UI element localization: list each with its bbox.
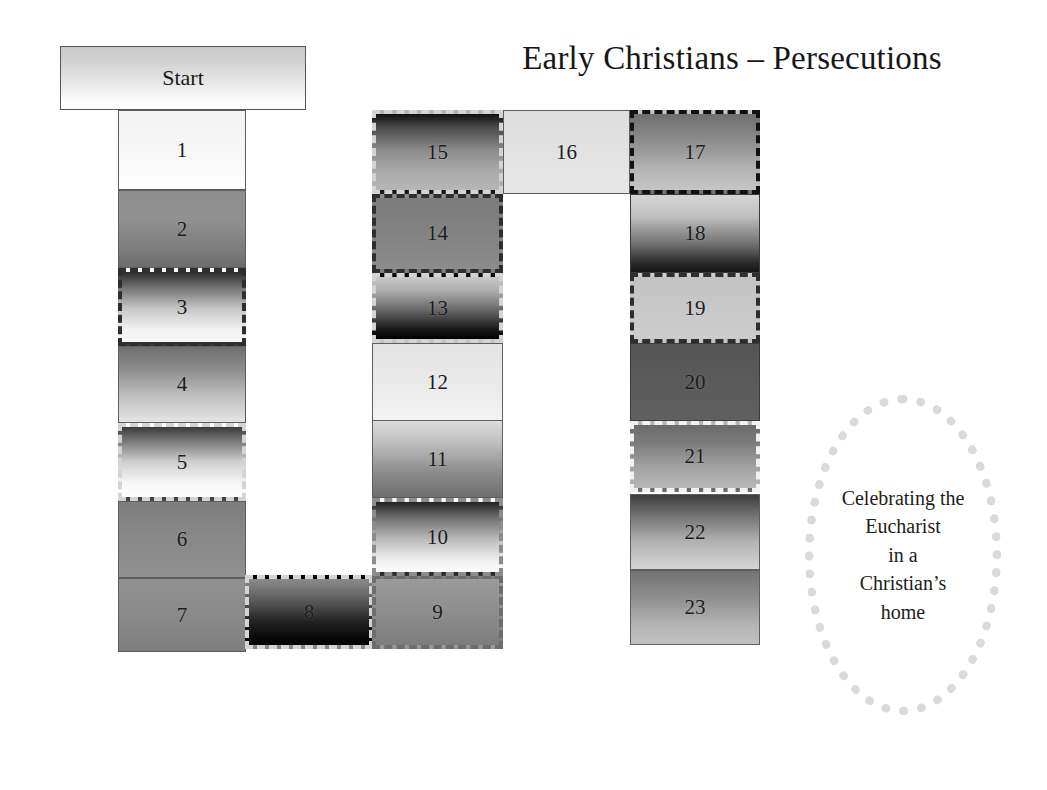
timeline-cell-label: 9 bbox=[432, 602, 443, 623]
timeline-cell-label: 8 bbox=[304, 602, 315, 623]
timeline-cell-label: 15 bbox=[427, 142, 448, 163]
timeline-cell-16[interactable]: 16 bbox=[503, 110, 630, 194]
start-box[interactable]: Start bbox=[60, 46, 306, 110]
callout-line-5: home bbox=[842, 598, 965, 626]
timeline-cell-10[interactable]: 10 bbox=[372, 498, 503, 576]
timeline-cell-12[interactable]: 12 bbox=[372, 343, 503, 421]
timeline-cell-18[interactable]: 18 bbox=[630, 194, 760, 273]
timeline-cell-6[interactable]: 6 bbox=[118, 501, 246, 578]
timeline-cell-17[interactable]: 17 bbox=[630, 110, 760, 194]
timeline-cell-1[interactable]: 1 bbox=[118, 110, 246, 190]
timeline-cell-label: 21 bbox=[685, 446, 706, 467]
timeline-cell-22[interactable]: 22 bbox=[630, 494, 760, 570]
timeline-cell-21[interactable]: 21 bbox=[630, 421, 760, 492]
timeline-cell-20[interactable]: 20 bbox=[630, 343, 760, 421]
timeline-cell-label: 14 bbox=[427, 223, 448, 244]
timeline-cell-label: 16 bbox=[556, 142, 577, 163]
timeline-cell-label: 11 bbox=[427, 449, 447, 470]
timeline-cell-label: 20 bbox=[685, 372, 706, 393]
timeline-cell-label: 6 bbox=[177, 529, 188, 550]
timeline-cell-label: 12 bbox=[427, 372, 448, 393]
callout-line-1: Celebrating the bbox=[842, 484, 965, 512]
timeline-cell-4[interactable]: 4 bbox=[118, 346, 246, 423]
timeline-cell-9[interactable]: 9 bbox=[372, 575, 503, 649]
timeline-cell-23[interactable]: 23 bbox=[630, 570, 760, 645]
timeline-cell-label: 10 bbox=[427, 527, 448, 548]
timeline-cell-label: 1 bbox=[177, 140, 188, 161]
timeline-cell-label: 18 bbox=[685, 223, 706, 244]
callout-line-2: Eucharist bbox=[842, 512, 965, 540]
timeline-cell-label: 2 bbox=[177, 219, 188, 240]
timeline-cell-8[interactable]: 8 bbox=[245, 575, 373, 649]
diagram-canvas: Early Christians – Persecutions Start 12… bbox=[0, 0, 1047, 790]
callout-line-3: in a bbox=[842, 541, 965, 569]
callout-text: Celebrating the Eucharist in a Christian… bbox=[836, 484, 971, 626]
page-title: Early Christians – Persecutions bbox=[452, 40, 1012, 77]
timeline-cell-label: 7 bbox=[177, 605, 188, 626]
timeline-cell-label: 5 bbox=[177, 452, 188, 473]
timeline-cell-2[interactable]: 2 bbox=[118, 190, 246, 268]
timeline-cell-11[interactable]: 11 bbox=[372, 420, 503, 498]
timeline-cell-label: 22 bbox=[685, 522, 706, 543]
timeline-cell-label: 13 bbox=[427, 298, 448, 319]
start-label: Start bbox=[162, 65, 204, 91]
timeline-cell-3[interactable]: 3 bbox=[118, 268, 246, 346]
timeline-cell-13[interactable]: 13 bbox=[372, 273, 503, 343]
timeline-cell-14[interactable]: 14 bbox=[372, 194, 503, 273]
timeline-cell-label: 4 bbox=[177, 374, 188, 395]
timeline-cell-label: 3 bbox=[177, 297, 188, 318]
timeline-cell-label: 17 bbox=[685, 142, 706, 163]
callout-line-4: Christian’s bbox=[842, 569, 965, 597]
timeline-cell-7[interactable]: 7 bbox=[118, 578, 246, 652]
timeline-cell-label: 23 bbox=[685, 597, 706, 618]
timeline-cell-label: 19 bbox=[685, 298, 706, 319]
timeline-cell-15[interactable]: 15 bbox=[372, 110, 503, 194]
timeline-cell-5[interactable]: 5 bbox=[118, 423, 246, 501]
callout-oval: Celebrating the Eucharist in a Christian… bbox=[805, 395, 1001, 715]
timeline-cell-19[interactable]: 19 bbox=[630, 273, 760, 343]
